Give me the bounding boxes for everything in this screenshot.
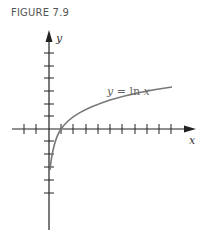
x-axis-label: x bbox=[189, 134, 196, 147]
curve-label: y = ln x bbox=[106, 85, 151, 98]
y-axis bbox=[44, 30, 54, 230]
x-axis-arrow-icon bbox=[184, 126, 196, 133]
ln-graph: y x y = ln x bbox=[0, 0, 204, 244]
y-axis-label: y bbox=[55, 32, 63, 45]
y-axis-arrow-icon bbox=[46, 30, 53, 42]
x-axis bbox=[12, 124, 196, 134]
